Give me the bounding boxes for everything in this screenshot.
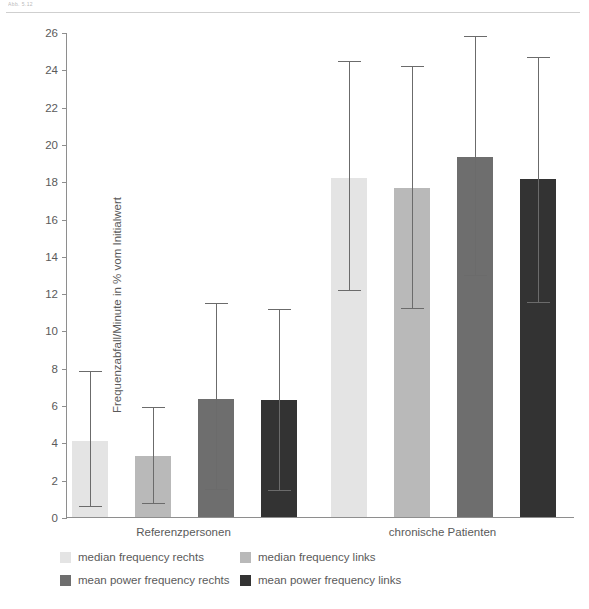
error-bar <box>216 304 217 490</box>
y-tick-mark <box>62 369 67 370</box>
error-bar <box>153 408 154 504</box>
y-tick-mark <box>62 406 67 407</box>
x-group-label: Referenzpersonen <box>136 526 231 538</box>
y-tick-mark <box>62 481 67 482</box>
legend-label: median frequency rechts <box>78 551 204 563</box>
error-bar-cap-high <box>527 57 550 58</box>
error-bar-cap-low <box>79 506 102 507</box>
error-bar-cap-high <box>79 371 102 372</box>
legend-label: median frequency links <box>258 551 376 563</box>
error-bar-cap-high <box>205 303 228 304</box>
y-tick-mark <box>62 443 67 444</box>
legend-label: mean power frequency rechts <box>78 574 230 586</box>
y-tick-mark <box>62 145 67 146</box>
y-tick-mark <box>62 518 67 519</box>
y-tick-mark <box>62 294 67 295</box>
error-bar <box>279 310 280 491</box>
error-bar-cap-high <box>142 407 165 408</box>
y-tick-mark <box>62 33 67 34</box>
error-bar-cap-low <box>401 308 424 309</box>
legend-item: mean power frequency rechts <box>60 574 230 586</box>
x-group-label: chronische Patienten <box>389 526 496 538</box>
legend-item: mean power frequency links <box>240 574 401 586</box>
legend-label: mean power frequency links <box>258 574 401 586</box>
error-bar <box>349 62 350 291</box>
y-tick-mark <box>62 220 67 221</box>
legend-item: median frequency links <box>240 551 376 563</box>
y-tick-mark <box>62 182 67 183</box>
error-bar-cap-high <box>268 309 291 310</box>
error-bar <box>538 58 539 303</box>
legend-item: median frequency rechts <box>60 551 204 563</box>
plot-area: 02468101214161820222426 <box>66 33 574 518</box>
y-tick-mark <box>62 108 67 109</box>
error-bar-cap-low <box>205 489 228 490</box>
error-bar-cap-low <box>142 503 165 504</box>
legend-row: mean power frequency rechtsmean power fr… <box>60 574 560 597</box>
y-tick-mark <box>62 70 67 71</box>
legend: median frequency rechtsmedian frequency … <box>60 551 560 597</box>
error-bar <box>475 37 476 277</box>
error-bar <box>90 372 91 507</box>
legend-row: median frequency rechtsmedian frequency … <box>60 551 560 574</box>
error-bar-cap-high <box>338 61 361 62</box>
y-tick-mark <box>62 257 67 258</box>
error-bar-cap-low <box>527 302 550 303</box>
error-bar-cap-high <box>401 66 424 67</box>
legend-swatch <box>60 575 71 586</box>
legend-swatch <box>60 552 71 563</box>
legend-swatch <box>240 575 251 586</box>
error-bar <box>412 67 413 309</box>
figure-container: Frequenzabfall/Minute in % vom Initialwe… <box>0 0 589 609</box>
legend-swatch <box>240 552 251 563</box>
error-bar-cap-high <box>464 36 487 37</box>
y-tick-mark <box>62 331 67 332</box>
error-bar-cap-low <box>268 490 291 491</box>
error-bar-cap-low <box>464 275 487 276</box>
error-bar-cap-low <box>338 290 361 291</box>
